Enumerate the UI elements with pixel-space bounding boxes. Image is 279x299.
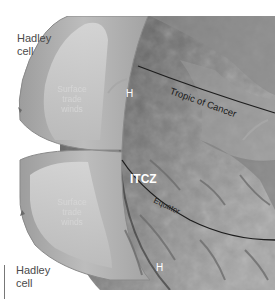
hadley-cell-label-north: Hadley cell — [17, 32, 51, 57]
hadley-cell-label-south: Hadley cell — [16, 264, 50, 289]
hadley-cell-diagram: Hadley cell Hadley cell Surface trade wi… — [0, 0, 279, 299]
surface-trade-winds-label-north: Surface trade winds — [48, 85, 96, 114]
high-pressure-label-north: H — [126, 88, 133, 100]
itcz-label: ITCZ — [130, 173, 157, 187]
leader-line — [4, 265, 5, 299]
surface-trade-winds-label-south: Surface trade winds — [48, 198, 96, 227]
high-pressure-label-south: H — [156, 262, 163, 274]
